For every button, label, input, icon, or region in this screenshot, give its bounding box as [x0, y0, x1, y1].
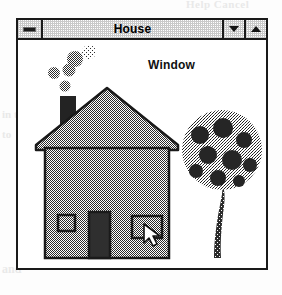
small-window: [58, 215, 75, 231]
window-title: House: [43, 20, 222, 38]
bleed-text-mid-2: to: [2, 128, 11, 140]
drawing-canvas[interactable]: Window: [18, 40, 266, 268]
triangle-up-icon: [251, 26, 261, 32]
roof: [36, 88, 178, 150]
tree-canopy: [182, 110, 262, 190]
system-menu-icon: [23, 27, 36, 32]
minimize-button[interactable]: [222, 20, 244, 38]
house-scene-graphic: [18, 40, 266, 268]
tree: [182, 110, 262, 258]
title-bar[interactable]: House: [18, 20, 266, 40]
system-menu-button[interactable]: [18, 20, 43, 38]
triangle-down-icon: [229, 26, 239, 32]
maximize-button[interactable]: [244, 20, 266, 38]
canvas-window-label: Window: [148, 58, 195, 72]
smoke-puffs: [48, 45, 96, 92]
bleed-text-top: Help Cancel: [186, 0, 249, 10]
application-window: House: [16, 18, 268, 270]
screenshot-root: Help Cancel in the to and House: [0, 0, 282, 295]
tree-trunk: [214, 182, 225, 258]
door: [89, 212, 110, 258]
